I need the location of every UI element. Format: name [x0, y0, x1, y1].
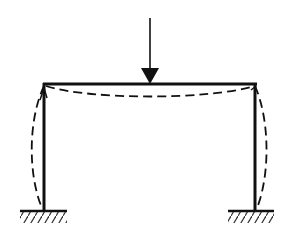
frame-drawing	[0, 0, 291, 246]
portal-frame-diagram: Fixed-base portal frame under a central …	[0, 0, 291, 246]
deflected-shape	[32, 86, 267, 208]
joint-rotation-marks	[40, 86, 256, 100]
point-load-arrow-icon	[141, 18, 159, 84]
deflected-right-column	[255, 86, 267, 208]
deflected-left-column	[32, 86, 44, 208]
right-fixed-support-icon	[228, 211, 274, 223]
undeformed-frame	[43, 83, 257, 211]
left-fixed-support-icon	[20, 211, 67, 223]
deflected-beam	[46, 86, 254, 97]
